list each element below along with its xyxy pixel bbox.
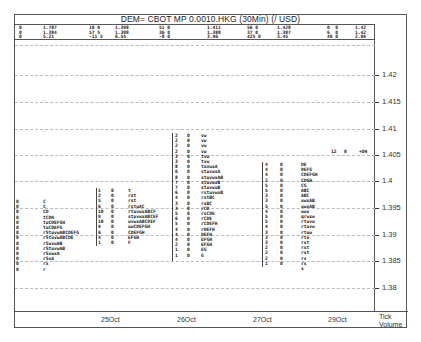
gridline <box>15 129 375 130</box>
gridline <box>15 181 375 182</box>
tick-volume-label-line1: Tick <box>379 313 402 321</box>
y-tick <box>375 288 379 289</box>
profile-27oct-zeros: 0 0 0 0 0 0 0 0 0 0 0 0 0 0 0 0 0 0 0 0 <box>280 162 283 266</box>
profile-29oct-zero: 0 <box>344 149 347 154</box>
y-label-1380: 1.38 <box>382 284 397 292</box>
stat-col-9: 1.42 1.42 2.06 <box>355 26 366 40</box>
date-axis: 25Oct 26Oct 27Oct 29Oct Tick Volume <box>15 311 408 328</box>
y-tick <box>375 102 379 103</box>
plot-area: 0 0 0 0 0 0 0 0 0 0 0 0 0 0 C C CD tCDH … <box>15 40 375 311</box>
gridline <box>15 75 375 76</box>
volume-bar-26oct <box>172 133 173 261</box>
y-label-1395: 1.395 <box>382 204 401 212</box>
chart-title: DEM= CBOT MP 0.0010.HKG (30Min) (/ USD) <box>15 15 406 24</box>
volume-bar-25oct <box>96 188 97 246</box>
y-tick <box>375 261 379 262</box>
y-label-1400: 1.4 <box>382 177 392 185</box>
profile-26oct-counts: 2 2 2 2 3 3 8 6 8 7 7 6 4 3 3 5 6 5 4 4 … <box>175 133 178 258</box>
header-stats-row: 0 0 0 1.787 1.384 5.21 10 0 57 5 -11 5 1… <box>15 24 375 40</box>
price-axis: 1.42 1.415 1.41 1.405 1.4 1.395 1.39 1.3… <box>375 40 408 311</box>
profile-27oct-letters: DE DEFG CDEFGH CDGH CG ABC ABC uwxAB uwx… <box>301 162 318 271</box>
x-label-25oct: 25Oct <box>101 316 120 324</box>
y-tick <box>375 129 379 130</box>
tick-volume-label-line2: Volume <box>379 321 402 329</box>
y-tick <box>375 75 379 76</box>
profile-24oct-letters: C C CD tCDH tuCDEFGH tuCDEFG rStuvwABCDE… <box>43 199 79 272</box>
stat-col-6: 56 0 37 0 425 0 <box>247 26 261 40</box>
stat-col-1: 1.787 1.384 5.21 <box>43 26 57 40</box>
y-label-1405: 1.405 <box>382 151 401 159</box>
gridline <box>15 288 375 289</box>
gridline <box>15 102 375 103</box>
chart-frame: DEM= CBOT MP 0.0010.HKG (30Min) (/ USD) … <box>14 14 407 328</box>
profile-29oct-count: 12 <box>331 149 337 154</box>
y-tick <box>375 181 379 182</box>
tick-volume-label: Tick Volume <box>379 313 402 328</box>
gridline <box>15 155 375 156</box>
stat-col-0: 0 0 0 <box>19 26 22 40</box>
profile-26oct-zeros: 0 0 0 0 0 0 0 0 0 0 0 0 0 0 0 0 0 0 0 0 … <box>187 133 190 258</box>
stat-col-5: 1.411 1.388 3.96 <box>207 26 221 40</box>
y-label-1410: 1.41 <box>382 125 397 133</box>
y-tick <box>375 208 379 209</box>
stat-col-8: 0 0 6 0 40 0 <box>327 26 338 40</box>
y-label-1390: 1.39 <box>382 231 397 239</box>
y-tick <box>375 235 379 236</box>
volume-bar-27oct <box>262 162 263 267</box>
profile-29oct-letters: +DH <box>359 149 367 154</box>
profile-25oct-counts: 1 2 5 6 10 9 10 9 6 4 1 <box>98 188 104 245</box>
y-label-1420: 1.42 <box>382 71 397 79</box>
stat-col-4: 51 0 36 0 -8 0 <box>159 26 170 40</box>
x-label-26oct: 26Oct <box>177 316 196 324</box>
y-label-1385: 1.385 <box>382 257 401 265</box>
y-tick <box>375 155 379 156</box>
stat-col-2: 10 0 57 5 -11 5 <box>89 26 103 40</box>
gridline <box>15 45 375 46</box>
profile-26oct-letters: vw vw vw vw tvw tvw tuvwxA stuvwxA stuvw… <box>201 133 223 258</box>
x-label-27oct: 27Oct <box>253 316 272 324</box>
profile-27oct-counts: 4 4 4 2 5 5 3 3 5 4 5 5 4 3 3 3 2 2 2 1 <box>265 162 268 266</box>
profile-25oct-zeros: 0 0 0 0 0 0 0 0 0 0 0 <box>111 188 114 245</box>
stat-col-7: 1.428 1.387 3.45 <box>277 26 291 40</box>
profile-24oct-counts: 0 0 0 0 0 0 0 0 0 0 0 0 0 0 <box>16 199 19 272</box>
stat-col-3: 1.398 1.388 6.55 <box>115 26 129 40</box>
profile-25oct-letters: t rst rst rstuAC rtuvwxABCF stuvwxABCEF … <box>128 188 158 245</box>
y-label-1415: 1.415 <box>382 98 401 106</box>
x-label-29oct: 29Oct <box>328 316 347 324</box>
